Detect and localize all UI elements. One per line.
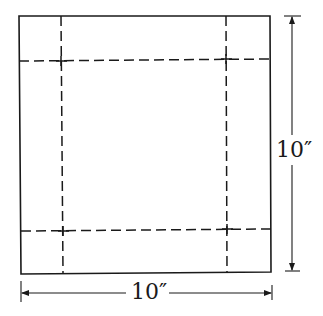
dimension-label-height: 10″ bbox=[276, 139, 312, 161]
dimension-label-width: 10″ bbox=[129, 281, 169, 303]
fold-intersections bbox=[56, 54, 233, 236]
fold-lines bbox=[19, 16, 271, 273]
box-net-diagram bbox=[0, 0, 323, 316]
outer-square bbox=[19, 16, 271, 274]
